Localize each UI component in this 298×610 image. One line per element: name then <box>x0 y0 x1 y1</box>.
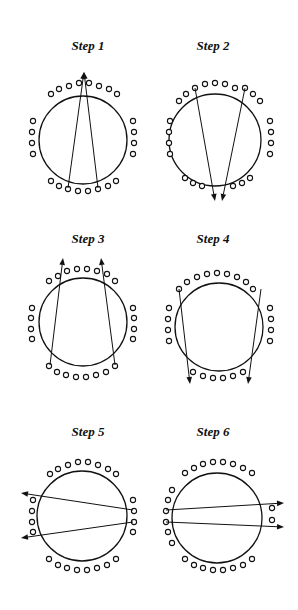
movement-line <box>166 522 277 527</box>
seat-left <box>29 140 34 145</box>
seating-rotation-diagram: Step 1Step 2Step 3Step 4Step 5Step 6 <box>0 0 298 610</box>
seat-bottom <box>230 183 235 188</box>
seat-bottom <box>190 180 195 185</box>
seat-left <box>167 118 172 123</box>
movement-line <box>223 88 245 194</box>
seat-bottom <box>54 369 59 374</box>
arrowhead-icon <box>246 377 252 384</box>
step-panel-6: Step 6 <box>163 424 284 573</box>
seat-bottom <box>46 363 51 368</box>
seat-top <box>66 83 71 88</box>
seat-top <box>176 98 181 103</box>
seat-top <box>214 270 219 275</box>
seat-bottom <box>103 369 108 374</box>
seat-top <box>84 266 89 271</box>
seat-left <box>169 487 174 492</box>
seat-bottom <box>46 556 51 561</box>
seat-top <box>46 278 51 283</box>
seat-top <box>204 271 209 276</box>
seat-left <box>29 129 34 134</box>
seat-top <box>232 85 237 90</box>
seat-bottom <box>85 188 90 193</box>
seat-top <box>114 91 119 96</box>
step-label: Step 3 <box>72 231 105 246</box>
seat-left <box>167 151 172 156</box>
seat-top <box>95 462 100 467</box>
seat-bottom <box>200 373 205 378</box>
seat-left <box>29 519 34 524</box>
seat-left <box>30 529 35 534</box>
seat-top <box>94 268 99 273</box>
seat-bottom <box>105 183 110 188</box>
seat-top <box>202 81 207 86</box>
seat-top <box>55 466 60 471</box>
seat-right <box>267 151 272 156</box>
seat-bottom <box>93 372 98 377</box>
seat-top <box>106 86 111 91</box>
arrowhead-icon <box>277 501 284 507</box>
table-circle <box>37 471 127 561</box>
seat-left <box>166 129 171 134</box>
seat-right <box>130 305 135 310</box>
seat-right <box>267 338 272 343</box>
seat-right <box>268 129 273 134</box>
movement-line <box>179 289 189 377</box>
seat-right <box>131 140 136 145</box>
seat-left <box>166 140 171 145</box>
seat-left <box>165 497 170 502</box>
seat-bottom <box>182 175 187 180</box>
seat-top <box>74 266 79 271</box>
seat-right <box>131 508 136 513</box>
seat-bottom <box>240 562 245 567</box>
seat-bottom <box>200 565 205 570</box>
seat-left <box>166 305 171 310</box>
seat-right <box>131 315 136 320</box>
seat-top <box>76 80 81 85</box>
seat-top <box>184 279 189 284</box>
seat-left <box>165 529 170 534</box>
seat-top <box>86 80 91 85</box>
seat-left <box>29 336 34 341</box>
seat-left <box>28 315 33 320</box>
seat-bottom <box>104 562 109 567</box>
seat-top <box>65 462 70 467</box>
seat-bottom <box>48 178 53 183</box>
movement-line <box>28 494 133 510</box>
step-label: Step 2 <box>197 38 230 53</box>
seat-top <box>230 461 235 466</box>
seat-top <box>210 459 215 464</box>
seat-bottom <box>182 556 187 561</box>
seat-top <box>249 470 254 475</box>
seat-left <box>169 540 174 545</box>
table-circle <box>39 96 127 184</box>
seat-top <box>104 271 109 276</box>
step-panel-2: Step 2 <box>166 38 273 201</box>
seat-bottom <box>64 565 69 570</box>
seat-top <box>112 278 117 283</box>
seat-left <box>165 327 170 332</box>
seat-top <box>183 91 188 96</box>
seat-top <box>200 461 205 466</box>
seat-left <box>166 338 171 343</box>
arrowhead-icon <box>59 258 65 265</box>
arrowhead-icon <box>186 377 192 384</box>
seat-bottom <box>247 175 252 180</box>
seat-right <box>130 529 135 534</box>
seat-bottom <box>230 565 235 570</box>
seat-left <box>30 118 35 123</box>
seat-top <box>47 471 52 476</box>
seat-bottom <box>210 375 215 380</box>
arrowhead-icon <box>211 194 217 201</box>
seat-bottom <box>220 375 225 380</box>
step-label: Step 1 <box>72 38 105 53</box>
seat-right <box>267 118 272 123</box>
seat-left <box>29 508 34 513</box>
seat-top <box>64 268 69 273</box>
arrowhead-icon <box>221 194 226 201</box>
seat-top <box>85 459 90 464</box>
seat-top <box>194 274 199 279</box>
seat-bottom <box>190 369 195 374</box>
seat-left <box>30 497 35 502</box>
seat-top <box>56 86 61 91</box>
step-panel-4: Step 4 <box>165 231 273 384</box>
